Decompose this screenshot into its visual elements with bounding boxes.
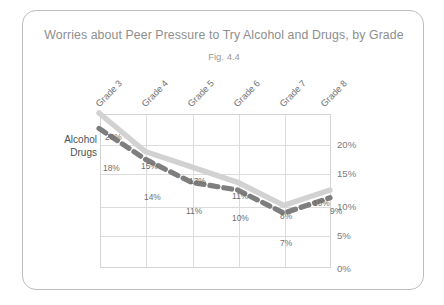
plot-area (100, 114, 331, 268)
chart-card: Worries about Peer Pressure to Try Alcoh… (22, 10, 424, 290)
x-tick-grade-5: Grade 5 (186, 78, 216, 109)
data-label-alcohol-grade-5: 13% (189, 176, 206, 186)
data-label-drugs-grade-5: 11% (186, 206, 202, 216)
gridline-horizontal (101, 174, 330, 175)
data-label-alcohol-grade-7: 8% (280, 211, 292, 221)
chart-screenshot: Worries about Peer Pressure to Try Alcoh… (0, 0, 444, 305)
gridline-vertical (146, 115, 147, 267)
y-tick-20: 20% (337, 139, 356, 150)
y-tick-0: 0% (337, 263, 351, 274)
x-tick-grade-3: Grade 3 (94, 78, 124, 109)
legend-item-drugs: Drugs (37, 146, 97, 159)
data-label-alcohol-grade-8: 10% (313, 198, 330, 208)
gridline-horizontal (101, 145, 330, 146)
data-label-alcohol-grade-4: 15% (141, 161, 158, 171)
data-label-drugs-grade-6: 10% (232, 213, 249, 223)
data-label-drugs-grade-3: 18% (103, 163, 120, 173)
x-tick-grade-4: Grade 4 (140, 78, 170, 109)
chart-subtitle: Fig. 4.4 (23, 51, 425, 62)
data-label-drugs-grade-4: 14% (144, 192, 161, 202)
legend: Alcohol Drugs (37, 133, 97, 159)
data-label-drugs-grade-8: 9% (330, 206, 342, 216)
data-label-drugs-grade-7: 7% (280, 238, 292, 248)
y-tick-15: 15% (337, 168, 356, 179)
x-tick-grade-7: Grade 7 (278, 78, 308, 109)
y-tick-5: 5% (337, 230, 351, 241)
gridline-horizontal (101, 236, 330, 237)
gridline-horizontal (101, 207, 330, 208)
data-label-alcohol-grade-3: 20% (105, 132, 122, 142)
x-tick-grade-6: Grade 6 (232, 78, 262, 109)
chart-title: Worries about Peer Pressure to Try Alcoh… (23, 28, 425, 42)
data-label-alcohol-grade-6: 11% (232, 191, 248, 201)
legend-item-alcohol: Alcohol (37, 133, 97, 146)
x-tick-grade-8: Grade 8 (319, 78, 349, 109)
gridline-vertical (193, 115, 194, 267)
